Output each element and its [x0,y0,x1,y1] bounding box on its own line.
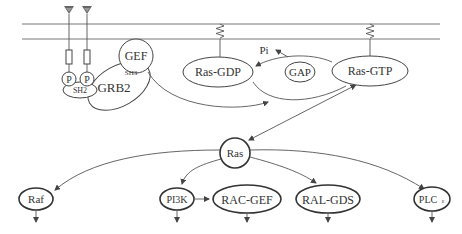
rac-gef-node: RAC-GEF [213,185,281,213]
svg-text:P: P [66,74,72,85]
ras-gtp-label: Ras-GTP [348,64,393,78]
ras-to-raf-arrow [55,150,220,190]
sh2-label: SH2 [73,86,87,95]
ras-to-plc-arrow [250,150,424,189]
plc-epsilon-node: PLC ε [414,187,450,211]
plc-label: PLC [419,194,438,205]
gap-label: GAP [289,66,311,78]
gap-node: GAP [285,62,315,82]
svg-text:P: P [84,74,90,85]
raf-node: Raf [19,188,53,210]
raf-label: Raf [28,193,44,205]
cell-membrane [22,24,440,39]
phospho-node-2: P [80,72,94,86]
ral-gds-label: RAL-GDS [302,193,354,207]
ras-node: Ras [220,138,250,168]
pi3k-node: PI3K [160,188,194,210]
ras-gdp-node: Ras-GDP [183,57,253,87]
gef-label: GEF [125,49,148,63]
sh3-label: SH3 [125,69,138,77]
ras-gtp-anchor [366,24,374,56]
ras-label: Ras [227,147,244,159]
grb2-label: GRB2 [97,80,130,95]
ras-pathway-diagram: GRB2 SH2 P P GEF SH3 Ras-GDP GAP Pi [0,0,462,234]
pi3k-label: PI3K [166,194,188,205]
ras-gtp-node: Ras-GTP [332,56,408,86]
pi-label: Pi [259,44,268,56]
ral-gds-node: RAL-GDS [296,185,360,213]
ras-gdp-label: Ras-GDP [195,65,241,79]
ras-to-ral-gds-arrow [250,157,316,183]
ras-gtp-ras-arrow [249,87,352,140]
gef-node: GEF [119,39,153,73]
rac-gef-label: RAC-GEF [221,193,273,207]
ras-to-pi3k-arrow [182,159,221,184]
phospho-node-1: P [62,72,76,86]
pi-release-arrow [276,50,288,57]
ras-gdp-anchor [216,24,224,59]
